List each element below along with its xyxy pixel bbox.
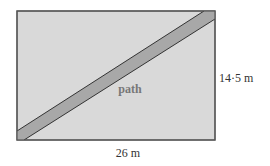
field-diagram: path 14·5 m 26 m	[0, 0, 270, 166]
path-label: path	[118, 82, 142, 96]
width-label: 26 m	[116, 146, 141, 160]
height-label: 14·5 m	[219, 71, 254, 85]
